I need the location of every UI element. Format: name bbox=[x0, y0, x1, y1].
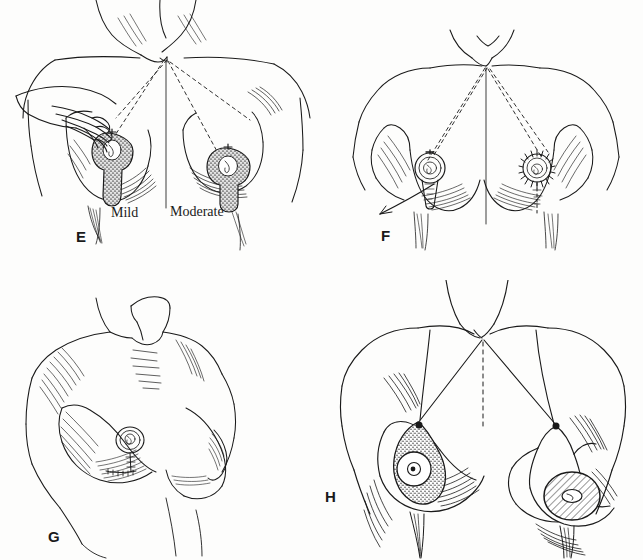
panel-h-illustration bbox=[322, 280, 643, 560]
panel-letter-e: E bbox=[76, 229, 87, 244]
figure-sheet: E F G H Mild Moderate bbox=[0, 0, 643, 560]
panel-e bbox=[0, 0, 321, 280]
panel-letter-f: F bbox=[381, 228, 391, 243]
panel-h bbox=[322, 280, 643, 560]
panel-f-illustration bbox=[322, 0, 643, 280]
annotation-mild: Mild bbox=[111, 206, 138, 220]
annotation-moderate: Moderate bbox=[170, 205, 224, 219]
panel-f bbox=[322, 0, 643, 280]
panel-letter-h: H bbox=[325, 489, 336, 504]
panel-g bbox=[0, 280, 321, 560]
panel-letter-g: G bbox=[48, 529, 60, 544]
panel-e-illustration bbox=[0, 0, 321, 280]
panel-g-illustration bbox=[0, 280, 321, 560]
